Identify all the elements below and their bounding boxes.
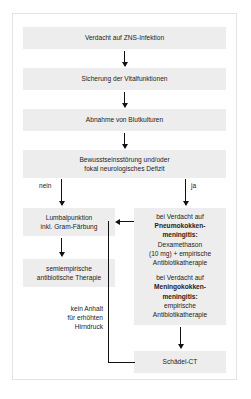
node-suspected-pathogens: bei Verdacht auf Pneumokokken- meningiti…: [134, 208, 226, 325]
feedback-note-line3: Hirndruck: [43, 322, 103, 331]
pneumo-tx-line1: Dexamethason: [158, 240, 202, 249]
arrow-blood-cultures-to-consciousness: [124, 133, 125, 148]
flowchart-frame: Verdacht auf ZNS-Infektion Sicherung der…: [12, 13, 237, 380]
feedback-note-line2: für erhöhten: [43, 313, 103, 322]
mening-tx-line1: empirische: [164, 301, 196, 310]
pneumo-name-line2: meningitis:: [162, 230, 197, 239]
arrow-suspicion-to-vitals: [124, 51, 125, 66]
mening-name-line1: Meningokokken-: [154, 282, 206, 291]
node-blood-cultures: Abnahme von Blutkulturen: [23, 109, 226, 131]
node-lumbar-puncture-line2: inkl. Gram-Färbung: [41, 222, 98, 231]
mening-name-line2: meningitis:: [162, 292, 197, 301]
node-head-ct-line1: Schädel-CT: [163, 357, 198, 366]
arrow-pathogens-to-head-ct: [180, 327, 181, 348]
feedback-note-line1: kein Anhalt: [43, 304, 103, 313]
feedback-note: kein Anhalt für erhöhten Hirndruck: [43, 304, 103, 331]
arrow-branch-yes: [185, 179, 186, 205]
node-semiempiric-therapy: semiempirische antibiotische Therapie: [23, 259, 115, 287]
edge-label-ja: ja: [191, 182, 196, 190]
node-semiempiric-therapy-line1: semiempirische: [46, 264, 92, 273]
feedback-line-bottom: [108, 362, 135, 363]
node-vitals: Sicherung der Vitalfunktionen: [23, 68, 226, 90]
edge-label-nein: nein: [39, 182, 51, 190]
node-consciousness-line2: fokal neurologisches Defizit: [84, 164, 164, 173]
node-blood-cultures-line1: Abnahme von Blutkulturen: [86, 115, 163, 124]
arrow-vitals-to-blood-cultures: [124, 92, 125, 107]
node-lumbar-puncture: Lumbalpunktion inkl. Gram-Färbung: [23, 208, 115, 236]
node-semiempiric-therapy-line2: antibiotische Therapie: [37, 273, 101, 282]
arrow-branch-no: [61, 179, 62, 205]
arrow-lumbar-to-semiempiric: [61, 238, 62, 256]
node-suspicion: Verdacht auf ZNS-Infektion: [23, 27, 226, 49]
pneumo-name-line1: Pneumokokken-: [155, 221, 206, 230]
node-consciousness-line1: Bewusstseinsstörung und/oder: [79, 155, 169, 164]
node-head-ct: Schädel-CT: [134, 351, 226, 373]
mening-lead: bei Verdacht auf: [156, 273, 204, 282]
pneumo-tx-line2: (10 mg) + empirische: [149, 249, 211, 258]
feedback-line-top: [120, 221, 134, 222]
pneumo-tx-line3: Antibiotikatherapie: [153, 258, 207, 267]
node-suspicion-line1: Verdacht auf ZNS-Infektion: [85, 33, 164, 42]
feedback-line-vertical: [108, 221, 109, 363]
mening-tx-line2: Antibiotikatherapie: [153, 310, 207, 319]
node-vitals-line1: Sicherung der Vitalfunktionen: [81, 74, 167, 83]
node-consciousness: Bewusstseinsstörung und/oder fokal neuro…: [23, 150, 226, 178]
pneumo-lead: bei Verdacht auf: [156, 212, 204, 221]
feedback-arrow-head-icon: [115, 219, 120, 225]
node-lumbar-puncture-line1: Lumbalpunktion: [46, 213, 93, 222]
